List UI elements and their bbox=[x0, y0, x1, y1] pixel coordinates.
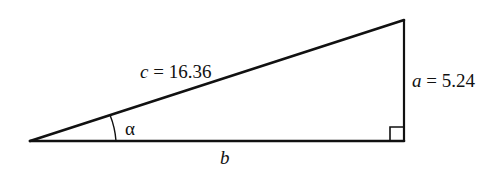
hypotenuse-c bbox=[30, 20, 404, 141]
triangle-diagram: c = 16.36 α b a = 5.24 bbox=[0, 0, 501, 181]
angle-alpha-label: α bbox=[125, 118, 135, 139]
hypotenuse-label: c = 16.36 bbox=[140, 61, 211, 82]
triangle-sides bbox=[30, 20, 404, 141]
angle-alpha-arc bbox=[110, 115, 116, 141]
side-b-label: b bbox=[220, 147, 230, 168]
right-angle-marker bbox=[390, 127, 404, 141]
side-a-label: a = 5.24 bbox=[412, 70, 475, 91]
